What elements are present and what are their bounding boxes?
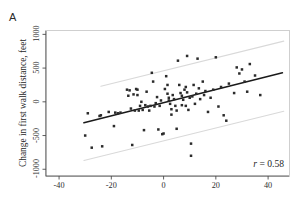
scatter-plot-canvas (0, 0, 302, 211)
scatter-point (169, 103, 172, 106)
y-axis-label: Change in first walk distance, feet (18, 18, 28, 188)
x-tick-label: 0 (149, 181, 179, 190)
scatter-point (127, 94, 130, 97)
scatter-point (147, 105, 150, 108)
scatter-point (204, 90, 207, 93)
scatter-point (140, 101, 143, 104)
scatter-point (136, 94, 139, 97)
scatter-point (241, 68, 244, 71)
scatter-point (175, 128, 178, 131)
scatter-point (203, 94, 206, 97)
scatter-point (134, 109, 137, 112)
scatter-point (170, 108, 173, 111)
scatter-point (158, 105, 161, 108)
scatter-point (160, 99, 163, 102)
x-tick-label: -20 (96, 181, 126, 190)
scatter-point (173, 98, 176, 101)
correlation-annotation: r = 0.58 (253, 158, 284, 169)
scatter-point (141, 109, 144, 112)
scatter-point (222, 114, 225, 117)
x-tick-label: 20 (201, 181, 231, 190)
scatter-point (181, 94, 184, 97)
x-tick-label: 40 (253, 181, 283, 190)
scatter-point (183, 88, 186, 91)
scatter-point (182, 99, 185, 102)
scatter-point (194, 103, 197, 106)
scatter-point (143, 129, 146, 132)
plot-frame (46, 31, 290, 177)
scatter-point (195, 92, 198, 95)
scatter-point (113, 125, 116, 128)
scatter-point (148, 109, 151, 112)
scatter-point (131, 144, 134, 147)
scatter-point (139, 105, 142, 108)
scatter-point (87, 112, 90, 115)
figure-panel: A Change in first walk distance, feet -1… (0, 0, 302, 211)
scatter-point (186, 91, 189, 94)
scatter-point (165, 75, 168, 78)
scatter-point (215, 56, 218, 59)
scatter-point (243, 80, 246, 83)
scatter-point (191, 95, 194, 98)
x-tick-label: -40 (44, 181, 74, 190)
scatter-point (162, 132, 165, 135)
scatter-point (181, 104, 184, 107)
scatter-point (166, 92, 169, 95)
scatter-point (136, 88, 139, 91)
scatter-point (175, 109, 178, 112)
scatter-point (188, 97, 191, 100)
scatter-point (171, 94, 174, 97)
scatter-point (157, 128, 160, 131)
scatter-point (254, 74, 257, 77)
scatter-point (202, 80, 205, 83)
scatter-point (117, 112, 120, 115)
y-tick-label: 1000 (31, 19, 40, 49)
scatter-point (170, 113, 173, 116)
y-tick-label: 500 (31, 53, 40, 83)
y-tick-label: -500 (31, 120, 40, 150)
scatter-point (192, 84, 195, 87)
scatter-point (151, 72, 154, 75)
scatter-point (185, 86, 188, 89)
scatter-point (196, 57, 199, 60)
scatter-point (246, 90, 249, 93)
correlation-symbol: r (253, 158, 257, 169)
scatter-point (233, 92, 236, 95)
scatter-point (190, 155, 193, 158)
scatter-point (166, 84, 169, 87)
scatter-point (149, 105, 152, 108)
scatter-point (114, 111, 117, 114)
scatter-point (238, 72, 241, 75)
scatter-point (185, 105, 188, 108)
scatter-point (100, 114, 103, 117)
scatter-point (220, 86, 223, 89)
scatter-point (186, 55, 189, 58)
scatter-point (138, 109, 141, 112)
scatter-point (198, 87, 201, 90)
scatter-point (168, 99, 171, 102)
scatter-point (199, 98, 202, 101)
scatter-point (107, 111, 110, 114)
scatter-point (178, 84, 181, 87)
scatter-point (156, 96, 159, 99)
correlation-value: = 0.58 (259, 158, 284, 169)
scatter-point (126, 88, 129, 91)
scatter-point (249, 63, 252, 66)
scatter-point (101, 145, 104, 148)
scatter-point (168, 97, 171, 100)
scatter-point (128, 89, 131, 92)
scatter-point (212, 88, 215, 91)
scatter-point (174, 105, 177, 108)
scatter-point (228, 82, 231, 85)
scatter-point (152, 80, 155, 83)
scatter-point (209, 97, 212, 100)
scatter-point (130, 107, 133, 110)
scatter-point (259, 94, 262, 97)
scatter-point (177, 59, 180, 62)
plot-frame-rect (46, 31, 290, 177)
scatter-point (225, 119, 228, 122)
scatter-point (190, 142, 193, 145)
scatter-point (154, 102, 157, 105)
y-tick-label: 0 (31, 86, 40, 116)
scatter-point (153, 105, 156, 108)
